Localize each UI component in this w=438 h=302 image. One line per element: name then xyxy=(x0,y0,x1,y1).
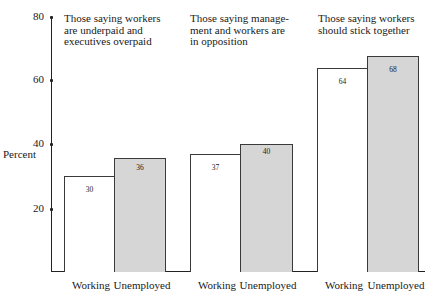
y-tick-60 xyxy=(50,79,53,82)
group-title-stick-together: Those saying workers should stick togeth… xyxy=(318,13,438,36)
title-line: executives overpaid xyxy=(64,36,189,48)
title-line: Those saying workers xyxy=(318,13,438,25)
title-line: Those saying workers xyxy=(64,13,189,25)
category-label-unemployed: Unemployed xyxy=(366,279,426,291)
y-tick-20 xyxy=(50,208,53,211)
category-label-unemployed: Unemployed xyxy=(112,279,172,291)
category-label-unemployed: Unemployed xyxy=(238,279,298,291)
bar-opposition-unemployed: 40 xyxy=(240,144,293,272)
title-line: Those saying manage- xyxy=(190,13,315,25)
y-tick-40 xyxy=(50,143,53,146)
y-tick-80 xyxy=(50,16,53,19)
y-axis-label: Percent xyxy=(3,148,36,160)
bar-value: 37 xyxy=(191,163,240,172)
bar-stick-together-unemployed: 68 xyxy=(367,56,419,272)
category-label-working: Working xyxy=(194,279,240,291)
category-label-working: Working xyxy=(321,279,367,291)
group-title-opposition: Those saying manage- ment and workers ar… xyxy=(190,13,315,48)
bar-chart: 80 60 40 20 Percent Those saying workers… xyxy=(0,0,438,302)
y-tick-label-20: 20 xyxy=(20,202,44,214)
category-label-working: Working xyxy=(68,279,114,291)
bar-value: 30 xyxy=(65,185,114,194)
y-tick-label-80: 80 xyxy=(20,10,44,22)
bar-value: 68 xyxy=(368,65,418,74)
bar-value: 40 xyxy=(241,147,292,156)
bar-opposition-working: 37 xyxy=(190,154,241,272)
bar-underpaid-unemployed: 36 xyxy=(114,158,166,272)
bar-value: 36 xyxy=(115,163,165,172)
group-title-underpaid: Those saying workers are underpaid and e… xyxy=(64,13,189,48)
bar-underpaid-working: 30 xyxy=(64,176,115,272)
title-line: should stick together xyxy=(318,25,438,37)
bar-value: 64 xyxy=(318,77,367,86)
bar-stick-together-working: 64 xyxy=(317,68,368,272)
title-line: in opposition xyxy=(190,36,315,48)
y-tick-label-60: 60 xyxy=(20,73,44,85)
